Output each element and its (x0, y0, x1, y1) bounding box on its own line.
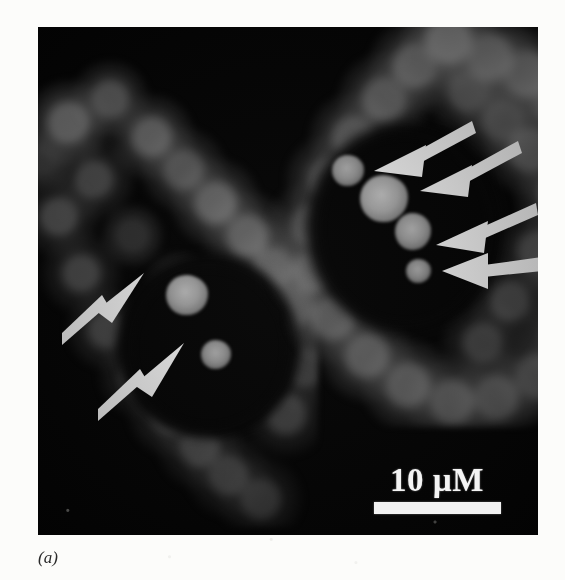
scale-bar-label: 10 µM (362, 463, 512, 497)
scale-bar-rule (374, 502, 501, 514)
scale-bar: 10 µM (362, 463, 512, 514)
fluorescence-micrograph-panel: 10 µM (38, 27, 538, 535)
panel-label: (a) (38, 548, 58, 568)
arrow-right-cell-4 (426, 249, 538, 301)
page-background: 10 µM (a) (0, 0, 565, 580)
arrow-left-cell-lower (96, 333, 221, 428)
